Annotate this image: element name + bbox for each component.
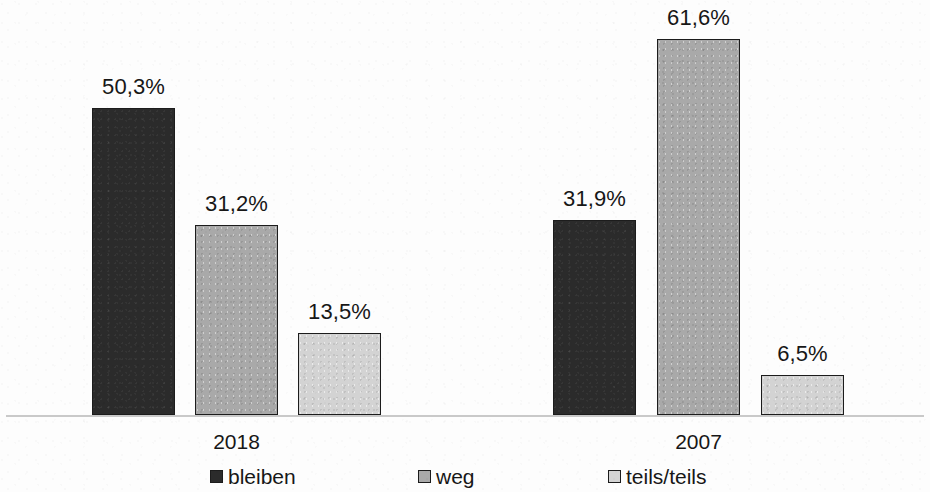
bar-value-label: 61,6% bbox=[635, 7, 762, 29]
plot-area: 50,3%31,2%13,5%201831,9%61,6%6,5%2007 bbox=[0, 0, 930, 492]
x-axis-group-label-2018: 2018 bbox=[167, 431, 307, 452]
bar-2018-teils-teils[interactable] bbox=[298, 333, 381, 415]
legend-item-bleiben[interactable]: bleiben bbox=[210, 466, 296, 487]
bar-2018-weg[interactable] bbox=[195, 225, 278, 415]
x-axis-group-label-2007: 2007 bbox=[629, 431, 769, 452]
bar-2007-teils-teils[interactable] bbox=[761, 375, 844, 415]
chart-legend: bleiben weg teils/teils bbox=[0, 462, 930, 492]
legend-item-teils-teils[interactable]: teils/teils bbox=[608, 466, 707, 487]
legend-label: teils/teils bbox=[626, 466, 707, 487]
bar-chart: 50,3%31,2%13,5%201831,9%61,6%6,5%2007 bl… bbox=[0, 0, 930, 492]
bar-2007-weg[interactable] bbox=[657, 39, 740, 415]
bar-value-label: 31,2% bbox=[173, 193, 300, 215]
medium-gray-square-swatch-icon bbox=[418, 470, 431, 483]
legend-item-weg[interactable]: weg bbox=[418, 466, 475, 487]
legend-label: bleiben bbox=[228, 466, 296, 487]
bar-2007-bleiben[interactable] bbox=[553, 220, 636, 415]
x-axis-line bbox=[6, 415, 924, 417]
bar-value-label: 6,5% bbox=[739, 343, 866, 365]
bar-value-label: 13,5% bbox=[276, 301, 403, 323]
bar-value-label: 50,3% bbox=[70, 76, 197, 98]
legend-label: weg bbox=[436, 466, 475, 487]
bar-value-label: 31,9% bbox=[531, 188, 658, 210]
bar-2018-bleiben[interactable] bbox=[92, 108, 175, 415]
dark-square-swatch-icon bbox=[210, 470, 223, 483]
light-gray-square-swatch-icon bbox=[608, 470, 621, 483]
